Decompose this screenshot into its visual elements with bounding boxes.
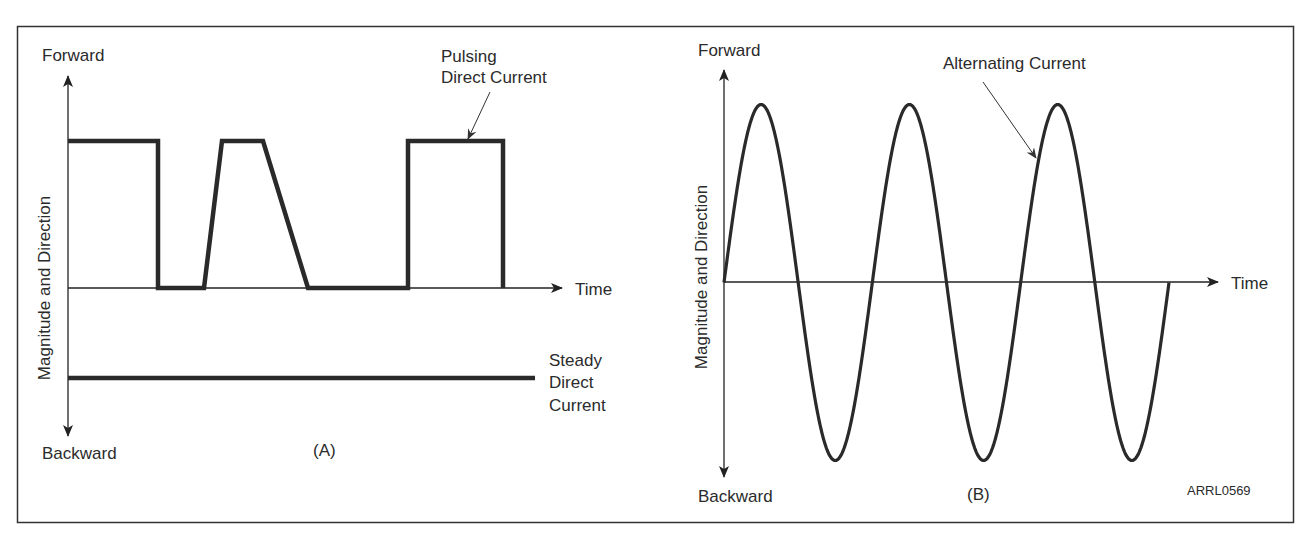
panel-a: Forward Backward Magnitude and Direction… [35,46,612,463]
steady-dc-label-line3: Current [549,396,606,415]
panel-b: Forward Backward Magnitude and Direction… [692,41,1268,506]
panel-a-forward-label: Forward [42,46,104,65]
ac-dc-figure: Forward Backward Magnitude and Direction… [0,0,1316,539]
panel-b-backward-label: Backward [698,487,773,506]
panel-a-time-label: Time [575,280,612,299]
ac-pointer [983,82,1036,158]
panel-b-time-label: Time [1231,274,1268,293]
pulsing-dc-label-line2: Direct Current [441,68,547,87]
steady-dc-label: Steady Direct Current [549,351,607,415]
panel-a-y-title: Magnitude and Direction [35,196,54,380]
ac-label: Alternating Current [943,54,1086,73]
panel-a-caption: (A) [313,441,336,460]
panel-b-y-title: Magnitude and Direction [692,185,711,369]
panel-a-backward-label: Backward [42,444,117,463]
pulsing-dc-label: Pulsing Direct Current [441,47,547,87]
panel-b-caption: (B) [967,485,990,504]
pulsing-dc-label-line1: Pulsing [441,47,497,66]
panel-b-forward-label: Forward [698,41,760,60]
steady-dc-label-line2: Direct [549,373,594,392]
steady-dc-label-line1: Steady [549,351,602,370]
figure-frame [18,27,1294,523]
pulsing-dc-pointer [468,92,490,139]
pulsing-dc-waveform [68,141,503,288]
figure-id-label: ARRL0569 [1187,483,1251,498]
